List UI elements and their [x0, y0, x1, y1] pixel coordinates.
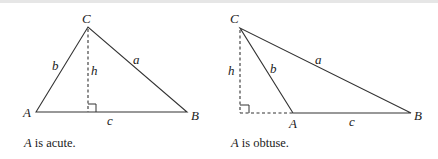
acute-triangle: [36, 27, 187, 112]
obtuse-caption: A is obtuse.: [230, 136, 289, 150]
obtuse-side-a-label: a: [315, 52, 322, 67]
triangle-figure: C A B b a c h A is acute. C A B b a c h …: [0, 0, 438, 159]
obtuse-altitude-h-label: h: [228, 63, 235, 78]
obtuse-vertex-a-label: A: [288, 116, 297, 131]
acute-caption: A is acute.: [23, 136, 76, 150]
obtuse-caption-var: A: [230, 136, 239, 150]
acute-side-b-label: b: [52, 58, 59, 73]
obtuse-vertex-b-label: B: [414, 108, 422, 123]
obtuse-triangle-panel: C A B b a c h A is obtuse.: [228, 11, 422, 150]
acute-vertex-b-label: B: [191, 108, 199, 123]
obtuse-triangle: [240, 28, 411, 113]
acute-side-a-label: a: [133, 52, 140, 67]
acute-caption-text: is acute.: [32, 136, 76, 150]
obtuse-right-angle-marker: [240, 105, 249, 113]
acute-side-c-label: c: [107, 113, 113, 128]
acute-altitude-h-label: h: [91, 63, 98, 78]
acute-vertex-c-label: C: [82, 11, 91, 26]
acute-triangle-panel: C A B b a c h A is acute.: [22, 11, 199, 150]
obtuse-side-c-label: c: [349, 114, 355, 129]
obtuse-caption-text: is obtuse.: [239, 136, 289, 150]
acute-caption-var: A: [23, 136, 32, 150]
acute-right-angle-marker: [88, 104, 96, 112]
acute-vertex-a-label: A: [22, 105, 31, 120]
obtuse-vertex-c-label: C: [230, 11, 239, 26]
obtuse-side-b-label: b: [270, 61, 277, 76]
